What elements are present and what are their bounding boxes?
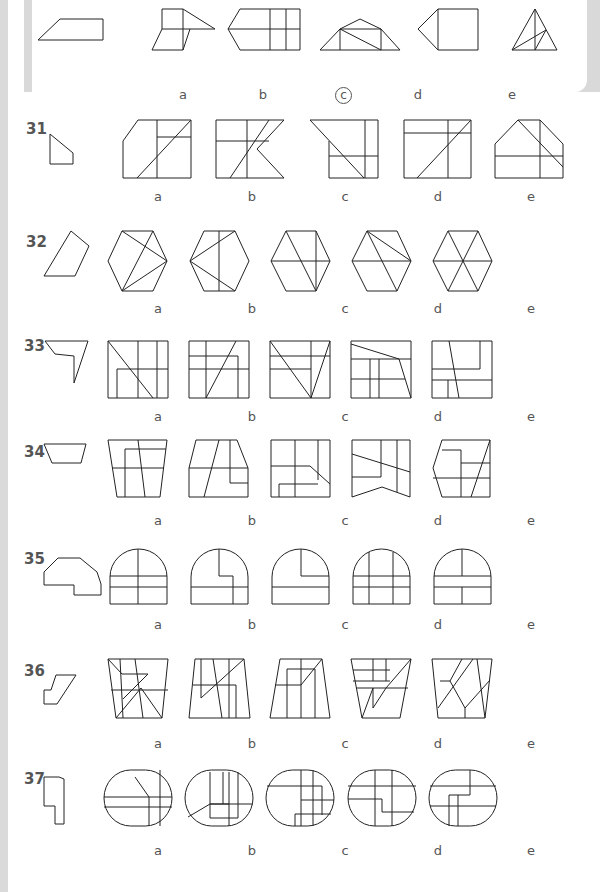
question-31-option-label: b <box>242 189 262 204</box>
example-option-b <box>228 9 300 50</box>
question-37-option-label: d <box>428 843 448 858</box>
question-35-option-label: e <box>521 617 541 632</box>
question-37-target-shape <box>44 777 64 824</box>
question-32-target-shape <box>44 231 89 276</box>
question-32-option-label: d <box>428 301 448 316</box>
question-33-target-shape <box>45 341 88 383</box>
question-34-option-c <box>271 440 330 497</box>
question-36-target-shape <box>44 675 76 704</box>
question-37-option-label: c <box>335 843 355 858</box>
question-33-option-e <box>432 341 492 398</box>
question-number-31: 31 <box>26 120 47 138</box>
question-35-option-a <box>110 549 167 604</box>
example-option-label: b <box>253 87 273 102</box>
question-33-option-c <box>270 341 330 398</box>
question-33-option-label: b <box>242 409 262 424</box>
question-35-option-label: b <box>242 617 262 632</box>
question-31-option-b <box>216 120 284 178</box>
question-number-34: 34 <box>24 443 45 461</box>
question-35-option-label: d <box>428 617 448 632</box>
question-33-option-label: e <box>521 409 541 424</box>
question-35-option-d <box>353 549 410 604</box>
question-34-option-label: e <box>521 513 541 528</box>
question-31-option-e <box>495 120 563 178</box>
question-36-option-label: b <box>242 736 262 751</box>
question-34-option-label: b <box>242 513 262 528</box>
example-answer-circled-label: c <box>335 87 352 104</box>
example-option-label: a <box>173 87 193 102</box>
question-36-option-a <box>108 659 168 718</box>
question-33-option-d <box>351 341 411 398</box>
example-option-label: e <box>502 87 522 102</box>
question-37-option-label: b <box>242 843 262 858</box>
question-37-option-e <box>429 770 497 826</box>
question-34-option-b <box>189 440 248 497</box>
question-31-target-shape <box>50 134 73 164</box>
question-35-option-label: a <box>148 617 168 632</box>
example-option-d <box>418 9 478 50</box>
question-36-option-e <box>432 659 492 718</box>
question-37-option-label: a <box>148 843 168 858</box>
question-number-36: 36 <box>24 662 45 680</box>
question-36-option-c <box>270 659 330 718</box>
question-34-option-label: a <box>148 513 168 528</box>
question-32-option-label: c <box>335 301 355 316</box>
question-34-option-e <box>433 440 490 497</box>
question-32-option-e <box>433 231 492 291</box>
question-34-option-d <box>352 440 410 497</box>
question-35-option-e <box>434 549 491 604</box>
question-31-option-a <box>123 120 191 178</box>
question-34-option-a <box>108 440 167 497</box>
question-33-option-a <box>108 341 168 398</box>
question-32-option-a <box>108 231 167 291</box>
question-35-option-label: c <box>335 617 355 632</box>
question-37-option-a <box>104 770 172 826</box>
question-31-option-label: c <box>335 189 355 204</box>
question-33-option-b <box>189 341 249 398</box>
question-31-option-d <box>404 120 471 178</box>
question-37-option-b <box>185 770 253 826</box>
question-36-option-label: c <box>335 736 355 751</box>
question-36-option-label: a <box>148 736 168 751</box>
question-33-option-label: c <box>335 409 355 424</box>
question-37-option-label: e <box>521 843 541 858</box>
question-37-option-d <box>348 770 416 826</box>
question-number-33: 33 <box>24 337 45 355</box>
question-33-option-label: a <box>148 409 168 424</box>
question-34-option-label: d <box>428 513 448 528</box>
question-31-option-c <box>310 120 378 178</box>
question-31-option-label: d <box>428 189 448 204</box>
question-34-option-label: c <box>335 513 355 528</box>
question-36-option-d <box>351 659 411 718</box>
example-option-a <box>152 9 215 50</box>
question-33-option-label: d <box>428 409 448 424</box>
question-35-target-shape <box>44 558 101 595</box>
question-35-option-c <box>272 549 329 604</box>
question-32-option-c <box>271 231 330 291</box>
question-32-option-b <box>190 231 249 291</box>
question-number-37: 37 <box>24 770 45 788</box>
example-target-shape <box>38 19 103 40</box>
question-31-option-label: e <box>521 189 541 204</box>
question-32-option-label: b <box>242 301 262 316</box>
question-35-option-b <box>191 549 248 604</box>
question-36-option-label: e <box>521 736 541 751</box>
question-number-35: 35 <box>24 550 45 568</box>
question-36-option-label: d <box>428 736 448 751</box>
example-option-e <box>512 9 557 50</box>
example-option-label: d <box>408 87 428 102</box>
question-32-option-d <box>352 231 411 291</box>
question-37-option-c <box>266 770 334 826</box>
example-option-c <box>320 19 400 50</box>
question-32-option-label: a <box>148 301 168 316</box>
question-32-option-label: e <box>521 301 541 316</box>
question-31-option-label: a <box>148 189 168 204</box>
figure-canvas <box>0 0 600 892</box>
question-36-option-b <box>189 659 250 718</box>
question-number-32: 32 <box>26 233 47 251</box>
question-34-target-shape <box>44 444 86 463</box>
